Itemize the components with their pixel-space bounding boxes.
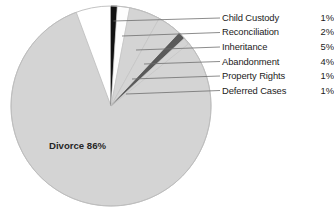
legend-label: Child Custody bbox=[222, 12, 279, 23]
legend-label: Inheritance bbox=[222, 41, 267, 52]
legend-value: 5% bbox=[314, 41, 334, 52]
legend-row[interactable]: Property Rights 1% bbox=[222, 68, 334, 83]
legend-value: 1% bbox=[314, 85, 334, 96]
legend-value: 1% bbox=[314, 12, 334, 23]
slice-label-divorce: Divorce 86% bbox=[49, 140, 106, 151]
legend-value: 4% bbox=[314, 56, 334, 67]
legend-label: Property Rights bbox=[222, 70, 285, 81]
legend-row[interactable]: Child Custody 1% bbox=[222, 10, 334, 25]
pie-chart: Divorce 86% Child Custody 1% Reconciliat… bbox=[0, 0, 334, 218]
legend-value: 2% bbox=[314, 26, 334, 37]
legend-row[interactable]: Inheritance 5% bbox=[222, 39, 334, 54]
legend-row[interactable]: Abandonment 4% bbox=[222, 54, 334, 69]
legend-label: Abandonment bbox=[222, 56, 279, 67]
legend-label: Reconciliation bbox=[222, 26, 279, 37]
legend-row[interactable]: Reconciliation 2% bbox=[222, 25, 334, 40]
legend-row[interactable]: Deferred Cases 1% bbox=[222, 83, 334, 98]
legend: Child Custody 1% Reconciliation 2% Inher… bbox=[222, 10, 334, 98]
legend-label: Deferred Cases bbox=[222, 85, 286, 96]
legend-value: 1% bbox=[314, 70, 334, 81]
